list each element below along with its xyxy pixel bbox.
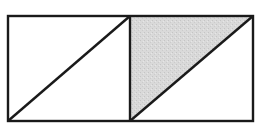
left-square-diagonal xyxy=(8,16,130,121)
two-squares-diagram xyxy=(0,0,260,124)
